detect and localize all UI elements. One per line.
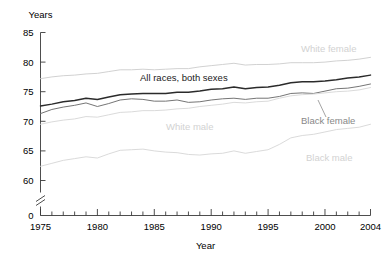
series-annotation-white-female: White female xyxy=(301,43,356,54)
y-tick-label: 65 xyxy=(23,145,34,156)
y-tick-label: 60 xyxy=(23,175,34,186)
y-tick-label: 80 xyxy=(23,57,34,68)
series-annotation-black-female: Black female xyxy=(301,115,355,126)
x-tick-label: 1980 xyxy=(87,221,108,232)
x-axis-title: Year xyxy=(196,240,215,251)
x-tick-label: 1975 xyxy=(30,221,51,232)
series-annotation-black-male: Black male xyxy=(306,152,352,163)
series-annotation-all-races-both-sexes: All races, both sexes xyxy=(140,72,228,83)
chart-canvas: 8580757065600197519801985199019952000200… xyxy=(0,0,382,270)
y-tick-label: 75 xyxy=(23,86,34,97)
y-tick-label: 0 xyxy=(28,210,33,221)
x-tick-label: 1985 xyxy=(144,221,165,232)
x-tick-label: 1995 xyxy=(258,221,279,232)
life-expectancy-chart: 8580757065600197519801985199019952000200… xyxy=(0,0,382,270)
x-tick-label: 1990 xyxy=(201,221,222,232)
x-tick-label: 2000 xyxy=(314,221,335,232)
x-tick-label: 2004 xyxy=(360,221,381,232)
y-tick-label: 70 xyxy=(23,116,34,127)
y-axis-title: Years xyxy=(29,9,53,20)
series-annotation-white-male: White male xyxy=(166,121,214,132)
y-tick-label: 85 xyxy=(23,27,34,38)
